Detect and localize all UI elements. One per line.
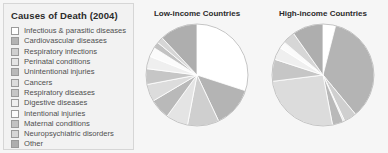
legend-item-label: Intentional injuries [24,109,85,119]
legend-item: Maternal conditions [11,119,131,129]
chart-block-low-income: Low-income Countries [136,8,258,129]
legend-item: Respiratory diseases [11,88,131,98]
legend-swatch-icon [11,58,19,66]
legend-swatch-icon [11,37,19,45]
legend-item-label: Cancers [24,78,52,88]
legend-item-label: Cardiovascular diseases [24,36,107,46]
legend-item: Perinatal conditions [11,57,131,67]
legend-item: Infectious & parasitic diseases [11,26,131,36]
chart-block-high-income: High-income Countries [261,8,385,129]
legend-item-label: Respiratory infections [24,47,97,57]
chart-title-low-income: Low-income Countries [136,8,258,19]
legend-item: Intentional injuries [11,108,131,118]
legend-item: Neuropsychiatric disorders [11,129,131,139]
pie-slice [272,75,332,126]
legend-swatch-icon [11,68,19,76]
legend-panel: Causes of Death (2004) Infectious & para… [3,3,134,150]
legend-item-label: Perinatal conditions [24,57,90,67]
figure-root: Causes of Death (2004) Infectious & para… [0,0,388,153]
legend-swatch-icon [11,79,19,87]
legend-swatch-icon [11,110,19,118]
legend-swatch-icon [11,99,19,107]
legend-title: Causes of Death (2004) [11,10,118,21]
legend-swatch-icon [11,89,19,97]
legend-item-label: Unintentional injuries [24,67,95,77]
legend-swatch-icon [11,120,19,128]
legend-swatch-icon [11,130,19,138]
legend-swatch-icon [11,140,19,148]
legend-item: Cancers [11,77,131,87]
legend-item-label: Infectious & parasitic diseases [24,26,126,36]
legend-swatch-icon [11,48,19,56]
chart-title-high-income: High-income Countries [261,8,385,19]
legend-list: Infectious & parasitic diseasesCardiovas… [11,26,131,150]
legend-item: Unintentional injuries [11,67,131,77]
legend-item: Digestive diseases [11,98,131,108]
legend-item-label: Other [24,139,43,149]
legend-item-label: Neuropsychiatric disorders [24,129,114,139]
legend-item-label: Digestive diseases [24,98,87,108]
legend-item: Cardiovascular diseases [11,36,131,46]
legend-swatch-icon [11,27,19,35]
legend-item: Other [11,139,131,149]
pie-chart-low-income [136,23,258,129]
legend-item-label: Maternal conditions [24,119,90,129]
pie-chart-high-income [262,23,384,129]
legend-item-label: Respiratory diseases [24,88,95,98]
legend-item: Respiratory infections [11,47,131,57]
